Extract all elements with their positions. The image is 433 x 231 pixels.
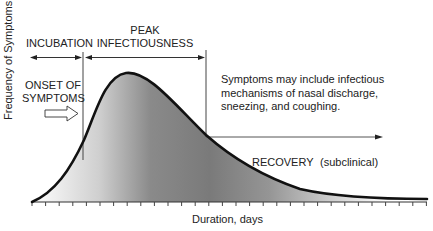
peak-label-line1: PEAK (100, 24, 190, 37)
incubation-arrow-right (75, 55, 82, 60)
peak-label-line2: INFECTIOUSNESS (94, 37, 196, 50)
symptoms-note: Symptoms may include infectious mechanis… (221, 73, 401, 114)
recovery-label: RECOVERY (252, 156, 314, 169)
peak-arrow-right (198, 55, 205, 60)
y-axis-label: Frequency of Symptoms (2, 10, 16, 120)
incubation-arrow-left (30, 55, 37, 60)
x-axis-label: Duration, days (192, 213, 263, 226)
recovery-subclinical-label: (subclinical) (320, 156, 378, 169)
onset-label-line2: SYMPTOMS (22, 92, 85, 105)
x-axis-ticks (32, 202, 426, 206)
peak-arrow-left (85, 55, 92, 60)
disease-progression-diagram: Frequency of Symptoms INCUBATION PEAK IN… (0, 0, 433, 231)
incubation-label: INCUBATION (26, 37, 93, 50)
symptom-curve-graphic (0, 0, 433, 231)
recovery-arrow-head (375, 135, 383, 140)
onset-label-line1: ONSET OF (25, 79, 81, 92)
onset-arrow-icon (45, 106, 78, 121)
